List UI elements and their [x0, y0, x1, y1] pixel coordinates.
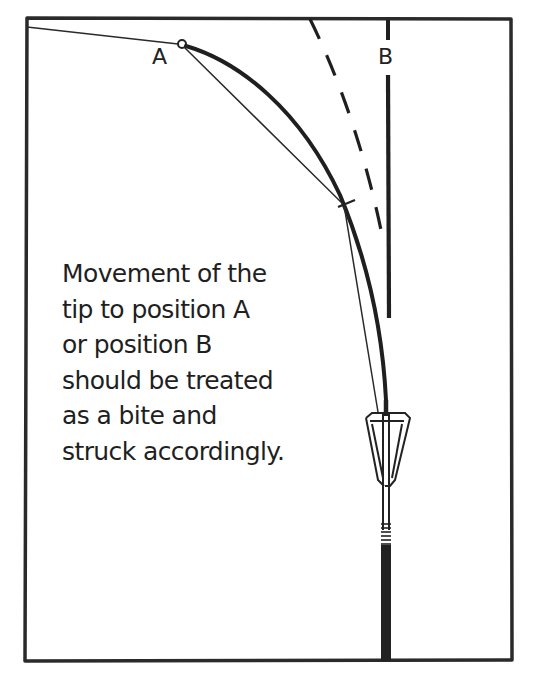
caption-line: should be treated — [62, 363, 362, 399]
label-position-b: B — [378, 44, 393, 69]
caption-line: as a bite and — [62, 398, 362, 434]
caption-line: tip to position A — [62, 292, 362, 328]
rod-line-position-b — [388, 75, 389, 318]
caption: Movement of the tip to position A or pos… — [62, 256, 362, 469]
caption-line: or position B — [62, 327, 362, 363]
rod-curve-dashed — [310, 19, 381, 230]
quiver-tip-funnel-icon — [366, 413, 410, 530]
caption-line: Movement of the — [62, 256, 362, 292]
line-to-position-a — [27, 27, 178, 44]
label-position-a: A — [152, 44, 167, 69]
caption-line: struck accordingly. — [62, 434, 362, 470]
rod-butt — [381, 545, 391, 661]
